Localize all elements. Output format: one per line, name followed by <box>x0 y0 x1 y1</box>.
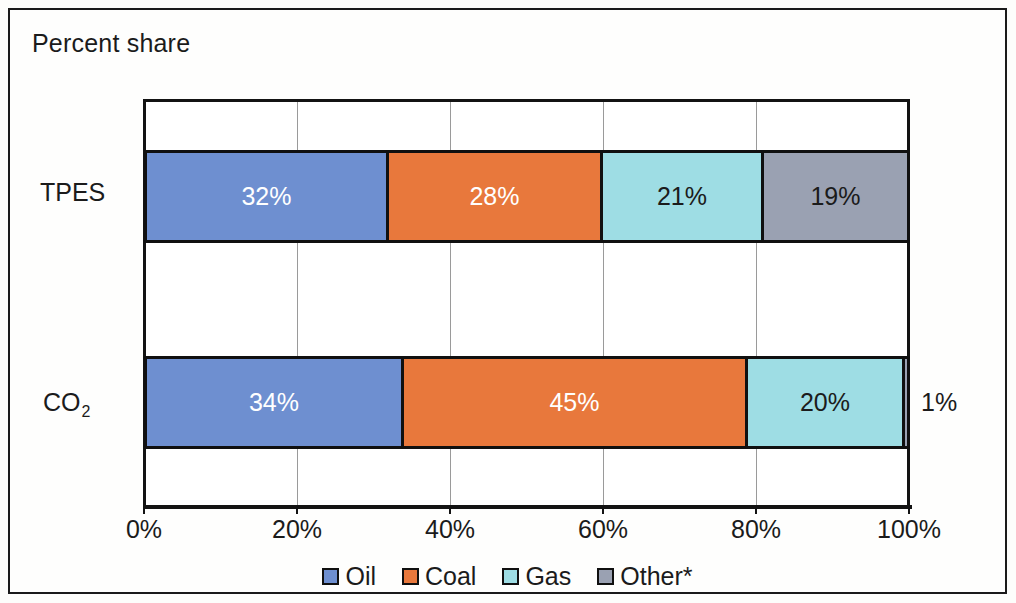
x-tick-label-100: 100% <box>877 515 941 544</box>
bar-segment-label-tpes-other: 19% <box>810 184 860 209</box>
chart-frame: Percent share 0% 20% 40% 60% 80% 100% TP… <box>8 8 1007 594</box>
bar-segment-label-co2-coal: 45% <box>549 390 599 415</box>
x-tick-label-60: 60% <box>578 515 628 544</box>
legend-swatch-other-icon <box>597 568 614 585</box>
legend-label-oil: Oil <box>345 562 376 591</box>
legend-swatch-coal-icon <box>402 568 419 585</box>
category-label-co2-subscript: 2 <box>82 403 91 420</box>
axis-tick-20 <box>296 505 298 514</box>
bar-row-co2: 34% 45% 20% <box>144 356 910 449</box>
bar-segment-tpes-gas[interactable]: 21% <box>600 150 764 243</box>
bar-row-tpes: 32% 28% 21% 19% <box>144 150 910 243</box>
legend-item-gas[interactable]: Gas <box>502 562 571 591</box>
chart-screenshot: Percent share 0% 20% 40% 60% 80% 100% TP… <box>0 0 1016 603</box>
chart-title: Percent share <box>32 29 190 58</box>
bar-segment-tpes-other[interactable]: 19% <box>761 150 910 243</box>
legend-item-other[interactable]: Other* <box>597 562 692 591</box>
bar-segment-label-co2-other: 1% <box>921 388 957 417</box>
x-tick-label-80: 80% <box>731 515 781 544</box>
bar-segment-co2-oil[interactable]: 34% <box>144 356 404 449</box>
category-label-tpes: TPES <box>40 178 105 207</box>
axis-tick-80 <box>755 505 757 514</box>
bar-segment-label-co2-gas: 20% <box>800 390 850 415</box>
category-label-co2: CO2 <box>43 388 89 417</box>
axis-tick-0 <box>143 505 145 514</box>
bar-segment-co2-other[interactable] <box>902 356 910 449</box>
bar-segment-label-tpes-coal: 28% <box>469 184 519 209</box>
category-label-co2-text: CO <box>43 388 81 416</box>
bar-segment-tpes-oil[interactable]: 32% <box>144 150 389 243</box>
axis-tick-40 <box>449 505 451 514</box>
legend-swatch-oil-icon <box>322 568 339 585</box>
bar-segment-co2-gas[interactable]: 20% <box>745 356 905 449</box>
bar-segment-label-tpes-gas: 21% <box>657 184 707 209</box>
x-axis-line <box>143 505 912 509</box>
x-tick-label-0: 0% <box>126 515 162 544</box>
legend-label-gas: Gas <box>525 562 571 591</box>
chart-legend: Oil Coal Gas Other* <box>10 562 1005 591</box>
bar-segment-tpes-coal[interactable]: 28% <box>386 150 603 243</box>
bar-segment-label-tpes-oil: 32% <box>241 184 291 209</box>
bar-segment-co2-coal[interactable]: 45% <box>401 356 748 449</box>
bar-segment-label-co2-oil: 34% <box>249 390 299 415</box>
legend-swatch-gas-icon <box>502 568 519 585</box>
legend-item-coal[interactable]: Coal <box>402 562 476 591</box>
legend-label-coal: Coal <box>425 562 476 591</box>
x-tick-label-20: 20% <box>272 515 322 544</box>
axis-tick-100 <box>908 505 910 514</box>
legend-item-oil[interactable]: Oil <box>322 562 376 591</box>
axis-tick-60 <box>602 505 604 514</box>
x-tick-label-40: 40% <box>425 515 475 544</box>
legend-label-other: Other* <box>620 562 692 591</box>
